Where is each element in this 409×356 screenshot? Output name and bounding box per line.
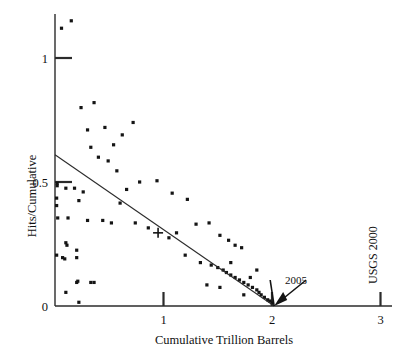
- data-point: [76, 280, 79, 283]
- data-point: [234, 244, 237, 247]
- data-point: [255, 268, 258, 271]
- x-axis-tick-labels: 123: [160, 313, 383, 327]
- data-point: [56, 216, 59, 219]
- data-point: [175, 231, 178, 234]
- year-2005-annotation: 2005: [270, 274, 307, 306]
- data-point: [55, 204, 58, 207]
- data-point: [186, 198, 189, 201]
- data-point: [64, 187, 67, 190]
- data-point: [134, 221, 137, 224]
- data-point: [132, 121, 135, 124]
- data-point: [97, 156, 100, 159]
- data-point: [77, 199, 80, 202]
- data-point: [56, 184, 59, 187]
- data-point: [155, 179, 158, 182]
- data-point: [86, 219, 89, 222]
- data-point: [229, 261, 232, 264]
- data-point: [227, 239, 230, 242]
- data-point: [167, 236, 170, 239]
- data-point: [60, 27, 63, 30]
- data-point: [184, 254, 187, 257]
- data-point: [92, 101, 95, 104]
- data-point: [55, 254, 58, 257]
- data-point: [101, 219, 104, 222]
- cross-marker: [153, 228, 163, 238]
- data-point: [242, 281, 245, 284]
- data-point: [64, 291, 67, 294]
- data-point: [92, 281, 95, 284]
- data-point: [247, 283, 250, 286]
- data-point: [171, 192, 174, 195]
- data-point: [107, 159, 110, 162]
- data-point: [79, 106, 82, 109]
- data-point: [75, 256, 78, 259]
- scatter-chart-figure: 00.51 123 2005 USGS 2000 Cumulative Tril…: [0, 0, 409, 356]
- x-tick-label-3: 3: [377, 313, 383, 327]
- data-point: [75, 249, 78, 252]
- data-point: [77, 301, 80, 304]
- data-point: [70, 19, 73, 22]
- data-point: [251, 286, 254, 289]
- y-axis-ticks: [55, 58, 72, 182]
- data-point: [218, 234, 221, 237]
- data-point: [119, 201, 122, 204]
- data-point: [242, 293, 245, 296]
- data-point: [115, 169, 118, 172]
- data-point: [89, 146, 92, 149]
- data-point: [138, 180, 141, 183]
- plot-canvas: 00.51 123 2005 USGS 2000 Cumulative Tril…: [0, 0, 409, 356]
- data-point: [194, 223, 197, 226]
- data-point: [86, 128, 89, 131]
- data-point: [89, 281, 92, 284]
- data-point: [199, 261, 202, 264]
- data-point: [147, 226, 150, 229]
- x-tick-label-2: 2: [269, 313, 275, 327]
- data-point: [103, 126, 106, 129]
- data-point: [218, 286, 221, 289]
- data-point: [112, 143, 115, 146]
- y-axis-title: Hits/Cumulative: [25, 154, 39, 237]
- data-point: [249, 276, 252, 279]
- data-point: [55, 197, 58, 200]
- y-tick-label-0: 0: [42, 300, 48, 314]
- trend-line: [55, 155, 274, 306]
- data-point: [63, 257, 66, 260]
- data-point: [205, 283, 208, 286]
- data-point: [65, 244, 68, 247]
- x-tick-label-1: 1: [160, 313, 166, 327]
- usgs-2000-label: USGS 2000: [366, 226, 380, 284]
- data-point: [125, 188, 128, 191]
- data-point: [66, 216, 69, 219]
- data-point: [207, 221, 210, 224]
- data-point: [240, 246, 243, 249]
- x-axis-title: Cumulative Trillion Barrels: [155, 333, 293, 347]
- data-point: [73, 187, 76, 190]
- data-points-group: [55, 19, 274, 304]
- y-tick-label-1: 1: [42, 52, 48, 66]
- data-point: [110, 221, 113, 224]
- annotation-arrow-head: [274, 292, 287, 306]
- year-2005-label: 2005: [285, 274, 308, 286]
- data-point: [121, 133, 124, 136]
- data-point: [82, 190, 85, 193]
